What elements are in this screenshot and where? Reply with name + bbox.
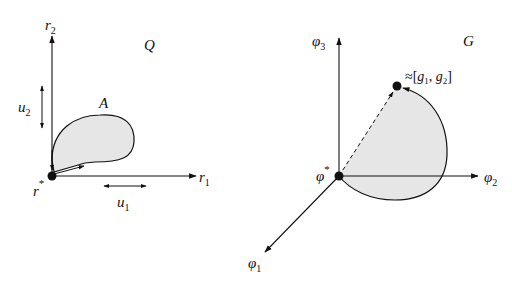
r2-axis-label: r2 (45, 17, 56, 36)
origin-label-r-star: r* (33, 177, 44, 199)
phi1-axis (265, 176, 339, 252)
space-label-g: G (463, 33, 474, 49)
region-a (52, 115, 134, 172)
origin-point-r-star (48, 172, 57, 181)
target-point-g (393, 82, 402, 91)
phi2-axis-label: φ2 (484, 169, 497, 188)
phi3-axis-label: φ3 (312, 33, 325, 52)
left-panel-q-space: r2 Q u2 A r1 r* u1 (18, 17, 210, 213)
right-panel-g-space: φ3 G ≈[g1, g2] φ* φ2 φ1 (248, 33, 497, 274)
phi1-axis-label: φ1 (248, 255, 261, 274)
region-a-label: A (98, 95, 109, 111)
origin-point-phi-star (335, 172, 344, 181)
diagram-canvas: r2 Q u2 A r1 r* u1 (0, 0, 512, 287)
region-g (339, 86, 447, 200)
space-label-q: Q (144, 37, 155, 53)
origin-label-phi-star: φ* (316, 163, 330, 184)
u2-label: u2 (18, 99, 31, 118)
target-point-label: ≈[g1, g2] (405, 69, 452, 86)
u1-label: u1 (117, 194, 130, 213)
r1-axis-label: r1 (199, 169, 210, 188)
